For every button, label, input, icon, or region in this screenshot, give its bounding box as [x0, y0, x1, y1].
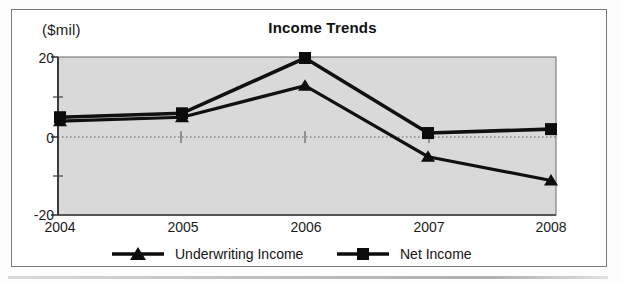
x-axis-label-2006: 2006 — [271, 219, 341, 235]
legend-label-net-income: Net Income — [400, 246, 472, 262]
y-axis-label-20: 20 — [38, 50, 54, 66]
legend-item-underwriting-income: Underwriting Income — [110, 243, 303, 265]
chart-legend: Underwriting Income Net Income — [110, 243, 530, 265]
legend-item-net-income: Net Income — [335, 243, 472, 265]
page-edge-shadow — [8, 276, 608, 279]
marker-net-2008 — [545, 123, 557, 135]
marker-net-2004 — [54, 111, 66, 123]
square-marker-icon — [335, 245, 391, 263]
marker-net-2007 — [422, 127, 434, 139]
chart-figure: ($mil) Income Trends — [0, 0, 621, 283]
x-axis-label-2007: 2007 — [394, 219, 464, 235]
legend-label-underwriting-income: Underwriting Income — [175, 246, 303, 262]
marker-net-2005 — [176, 107, 188, 119]
x-axis-label-2004: 2004 — [25, 219, 95, 235]
y-axis-label-0: 0 — [46, 130, 54, 146]
marker-net-2006 — [299, 52, 311, 64]
plot-area — [0, 0, 621, 283]
plot-background — [58, 57, 556, 215]
y-axis-tick-labels: 20 0 -20 — [0, 0, 54, 283]
x-axis-label-2005: 2005 — [148, 219, 218, 235]
triangle-marker-icon — [110, 245, 166, 263]
x-axis-label-2008: 2008 — [516, 219, 586, 235]
